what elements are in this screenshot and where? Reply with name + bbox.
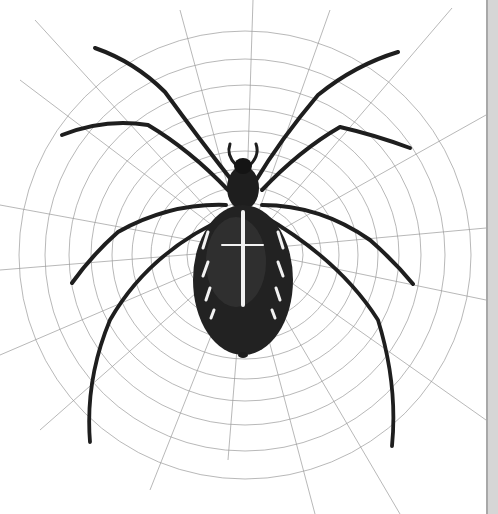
abdomen-sheen — [206, 217, 266, 307]
leg-right-1 — [255, 52, 398, 182]
palp-left — [229, 144, 236, 165]
leg-left-1 — [95, 48, 233, 182]
spider-head — [234, 158, 252, 174]
right-edge-strip — [486, 0, 498, 514]
spider-spinnerets — [238, 352, 248, 358]
palp-right — [250, 144, 257, 165]
spider-illustration: Spider on web illustration — [0, 0, 486, 514]
